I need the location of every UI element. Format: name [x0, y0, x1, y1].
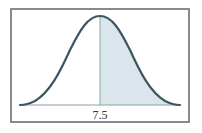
- x-tick-label-mean: 7.5: [85, 108, 115, 123]
- shaded-area-right-of-mean: [100, 16, 180, 105]
